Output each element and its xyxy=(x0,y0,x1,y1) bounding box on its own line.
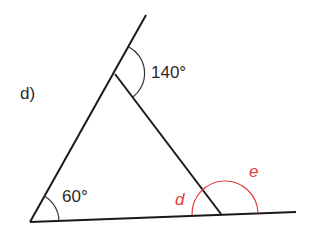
angle-label-60: 60° xyxy=(62,188,88,205)
angle-label-140: 140° xyxy=(151,64,186,81)
angle-label-d: d xyxy=(175,191,184,208)
part-label: d) xyxy=(20,85,35,102)
right-side-line xyxy=(115,74,221,214)
angle-label-e: e xyxy=(249,163,258,180)
left-side-line xyxy=(30,15,146,222)
triangle-figure xyxy=(0,0,309,235)
angle-arc-140 xyxy=(129,47,145,97)
base-line xyxy=(30,212,296,222)
angle-arc-60 xyxy=(44,196,59,221)
triangle-diagram: d) 140° 60° d e xyxy=(0,0,309,235)
angle-arc-d-e xyxy=(192,181,258,215)
